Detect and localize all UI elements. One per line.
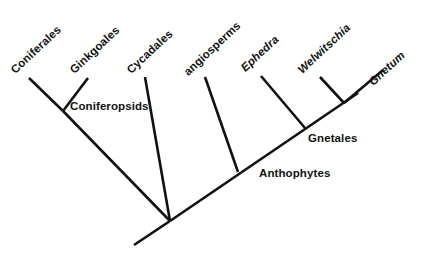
clade-label-gnetales: Gnetales (308, 133, 357, 145)
clade-label-coniferopsids: Coniferopsids (70, 101, 149, 113)
branch-coniferales (29, 78, 63, 111)
branch-backbone (170, 93, 358, 221)
branch-group (29, 70, 383, 245)
clade-label-anthophytes: Anthophytes (259, 168, 330, 180)
branch-angiosperms (205, 77, 238, 172)
phylogenetic-tree-figure: ConiferalesGinkgoalesCycadalesangiosperm… (0, 0, 431, 258)
branch-ephedra (261, 76, 305, 128)
branch-root (134, 221, 170, 245)
branch-welwitschia (320, 77, 344, 103)
